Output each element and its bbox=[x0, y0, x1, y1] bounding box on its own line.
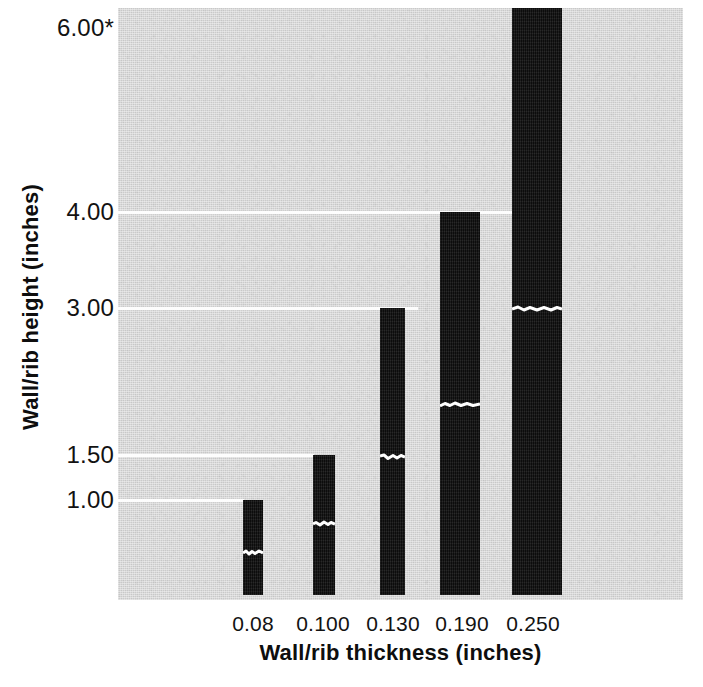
y-axis-title: Wall/rib height (inches) bbox=[18, 97, 44, 517]
bar-break-icon bbox=[440, 400, 480, 409]
bar-0.08 bbox=[243, 500, 263, 595]
chart-figure: 6.00* 4.00 3.00 1.50 1.00 0.08 0.100 0.1… bbox=[0, 0, 703, 687]
y-tick-6.00: 6.00* bbox=[2, 14, 114, 42]
x-tick-0.250: 0.250 bbox=[483, 612, 583, 636]
gridline-4.00 bbox=[118, 211, 548, 214]
gridline-1.00 bbox=[118, 499, 244, 502]
x-axis-title: Wall/rib thickness (inches) bbox=[118, 640, 683, 666]
bar-break-icon bbox=[380, 452, 405, 461]
bar-0.100 bbox=[313, 455, 335, 595]
bar-0.250 bbox=[512, 8, 562, 595]
gridline-1.50 bbox=[118, 454, 314, 457]
gridline-3.00 bbox=[118, 307, 418, 310]
plot-area bbox=[118, 8, 683, 600]
bar-break-icon bbox=[243, 548, 263, 557]
bar-0.190 bbox=[440, 212, 480, 595]
bar-0.130 bbox=[380, 308, 405, 595]
bar-break-icon bbox=[512, 304, 562, 313]
bar-break-icon bbox=[313, 519, 335, 528]
